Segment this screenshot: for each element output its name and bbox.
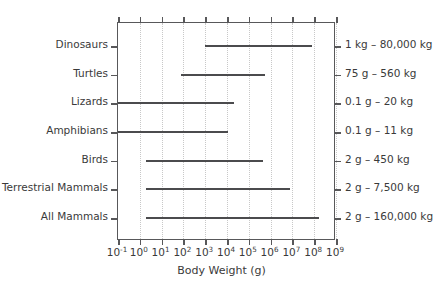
category-tick [334, 161, 341, 163]
x-axis-tick-label: 102 [173, 246, 191, 258]
x-axis-tick [183, 239, 185, 245]
body-weight-range-chart: DinosaursTurtlesLizardsAmphibiansBirdsTe… [0, 0, 443, 285]
x-axis-tick [162, 17, 164, 23]
x-axis-tick [314, 17, 316, 23]
x-axis-tick [271, 17, 273, 23]
gridline [336, 23, 338, 239]
category-tick [111, 46, 118, 48]
x-axis-tick-label: 106 [261, 246, 279, 258]
x-axis-tick [336, 17, 338, 23]
range-bar [118, 131, 228, 133]
plot-area [117, 22, 335, 240]
range-annotation-column: 1 kg – 80,000 kg75 g – 560 kg0.1 g – 20 … [345, 0, 443, 285]
category-tick [111, 218, 118, 220]
range-annotation: 2 g – 450 kg [345, 154, 410, 165]
category-tick [334, 46, 341, 48]
gridline [314, 23, 316, 239]
category-label: Amphibians [46, 125, 108, 136]
x-axis-tick-label: 10-1 [107, 246, 128, 258]
x-axis-tick [183, 17, 185, 23]
x-axis-tick [271, 239, 273, 245]
gridline [292, 23, 294, 239]
category-label: Dinosaurs [56, 39, 108, 50]
category-tick [334, 75, 341, 77]
range-annotation: 0.1 g – 20 kg [345, 96, 413, 107]
x-axis-tick [140, 239, 142, 245]
x-axis-tick [249, 17, 251, 23]
category-tick [334, 218, 341, 220]
range-bar [205, 45, 312, 47]
category-label: Turtles [73, 68, 108, 79]
category-label: Birds [82, 154, 108, 165]
category-tick [334, 103, 341, 105]
range-annotation: 2 g – 160,000 kg [345, 211, 433, 222]
x-axis-tick-label: 100 [130, 246, 148, 258]
x-axis-tick [292, 17, 294, 23]
category-label: Terrestrial Mammals [2, 182, 108, 193]
category-label-column: DinosaursTurtlesLizardsAmphibiansBirdsTe… [0, 0, 108, 285]
x-axis-tick [162, 239, 164, 245]
x-axis-tick [227, 17, 229, 23]
x-axis-tick [140, 17, 142, 23]
x-axis-tick-label: 107 [282, 246, 300, 258]
x-axis-title: Body Weight (g) [0, 264, 443, 277]
range-annotation: 1 kg – 80,000 kg [345, 39, 433, 50]
x-axis-tick [249, 239, 251, 245]
gridline [249, 23, 251, 239]
x-axis-tick-label: 109 [326, 246, 344, 258]
category-tick [111, 132, 118, 134]
category-tick [334, 132, 341, 134]
range-bar [146, 217, 318, 219]
range-bar [146, 188, 289, 190]
x-axis-tick-label: 105 [239, 246, 257, 258]
range-bar [146, 160, 263, 162]
x-axis-tick-label: 108 [304, 246, 322, 258]
x-axis-tick [205, 17, 207, 23]
x-axis-tick [118, 17, 120, 23]
range-annotation: 75 g – 560 kg [345, 68, 416, 79]
category-tick [334, 189, 341, 191]
x-axis-tick-label: 103 [195, 246, 213, 258]
x-axis-tick [292, 239, 294, 245]
category-tick [111, 103, 118, 105]
x-axis-tick-labels: 10-1100101102103104105106107108109 [0, 246, 443, 262]
x-axis-tick [227, 239, 229, 245]
x-axis-tick-label: 101 [152, 246, 170, 258]
x-axis-tick [205, 239, 207, 245]
x-axis-tick [336, 239, 338, 245]
range-bar [181, 74, 265, 76]
range-annotation: 0.1 g – 11 kg [345, 125, 413, 136]
category-label: Lizards [71, 96, 108, 107]
x-axis-tick-label: 104 [217, 246, 235, 258]
x-axis-tick [314, 239, 316, 245]
category-label: All Mammals [41, 211, 108, 222]
category-tick [111, 161, 118, 163]
range-annotation: 2 g – 7,500 kg [345, 182, 420, 193]
range-bar [118, 102, 234, 104]
category-tick [111, 75, 118, 77]
category-tick [111, 189, 118, 191]
gridline [271, 23, 273, 239]
